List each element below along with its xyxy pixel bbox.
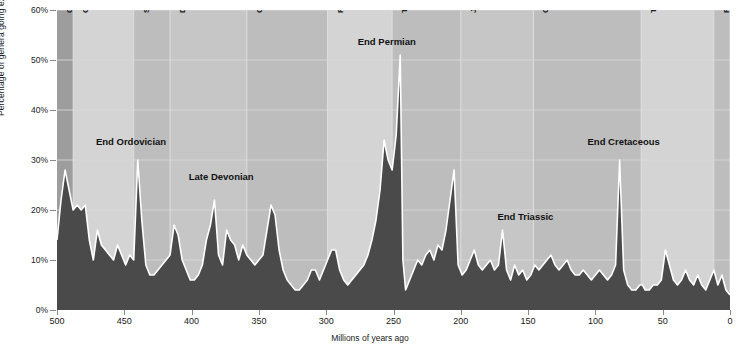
x-tick-label-350: 350 <box>251 316 266 326</box>
y-tick-label-0: 0% <box>0 305 48 315</box>
plot-svg <box>57 10 730 310</box>
x-tick-label-500: 500 <box>49 316 64 326</box>
period-label-triassic: Triassic <box>400 10 409 13</box>
y-tick-mark-0 <box>50 310 56 311</box>
annotation-end-permian: End Permian <box>358 36 416 47</box>
x-tick-mark-150 <box>528 310 529 315</box>
y-tick-mark-20 <box>50 210 56 211</box>
y-tick-label-50: 50% <box>0 55 48 65</box>
period-label-pleistogene: Pleistogene <box>722 10 730 13</box>
y-tick-label-30: 30% <box>0 155 48 165</box>
y-tick-mark-10 <box>50 260 56 261</box>
x-tick-mark-50 <box>663 310 664 315</box>
y-tick-label-20: 20% <box>0 205 48 215</box>
period-label-devonian: Devonian <box>178 10 187 13</box>
extinction-intensity-chart: Percentage of genera going extinct 0%10%… <box>0 0 740 347</box>
x-tick-label-0: 0 <box>727 316 732 326</box>
x-tick-label-100: 100 <box>588 316 603 326</box>
x-tick-mark-450 <box>124 310 125 315</box>
x-tick-label-150: 150 <box>521 316 536 326</box>
annotation-late-devonian: Late Devonian <box>189 171 254 182</box>
period-label-ordovician: Ordovician <box>81 10 90 13</box>
x-tick-label-200: 200 <box>453 316 468 326</box>
plot-area: CambrianOrdovicianSilurianDevonianCarbon… <box>57 10 730 310</box>
period-label-tertiary: Tertiary <box>649 10 658 13</box>
annotation-end-cretaceous: End Cretaceous <box>587 136 659 147</box>
period-label-cambrian: Cambrian <box>65 10 74 13</box>
x-tick-mark-100 <box>595 310 596 315</box>
period-label-jurassic: Jurassic <box>469 10 478 13</box>
x-axis-title: Millions of years ago <box>0 333 740 343</box>
annotation-end-ordovician: End Ordovician <box>96 136 166 147</box>
x-tick-label-50: 50 <box>658 316 668 326</box>
y-tick-label-40: 40% <box>0 105 48 115</box>
y-tick-mark-30 <box>50 160 56 161</box>
x-tick-mark-0 <box>730 310 731 315</box>
y-tick-label-10: 10% <box>0 255 48 265</box>
x-tick-label-250: 250 <box>386 316 401 326</box>
period-label-silurian: Silurian <box>142 10 151 13</box>
period-label-carboniferous: Carboniferous <box>255 10 264 13</box>
y-tick-mark-50 <box>50 60 56 61</box>
x-tick-mark-400 <box>192 310 193 315</box>
x-tick-label-400: 400 <box>184 316 199 326</box>
x-tick-mark-250 <box>394 310 395 315</box>
x-tick-label-300: 300 <box>319 316 334 326</box>
y-tick-label-60: 60% <box>0 5 48 15</box>
annotation-end-triassic: End Triassic <box>497 211 553 222</box>
x-tick-label-450: 450 <box>117 316 132 326</box>
x-tick-mark-200 <box>461 310 462 315</box>
y-tick-mark-60 <box>50 10 56 11</box>
y-tick-mark-40 <box>50 110 56 111</box>
period-label-cretaceous: Cretaceous <box>541 10 550 13</box>
period-label-permian: Permian <box>336 10 345 13</box>
x-tick-mark-350 <box>259 310 260 315</box>
x-tick-mark-500 <box>57 310 58 315</box>
x-tick-mark-300 <box>326 310 327 315</box>
